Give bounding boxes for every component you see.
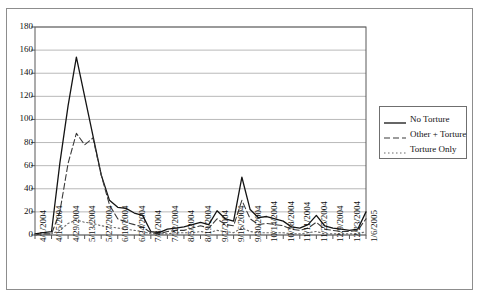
x-axis-tick-label: 9/2/2004 xyxy=(221,210,230,242)
y-axis-tick-label: 0 xyxy=(7,230,33,239)
x-axis-tick-label: 12/23/2004 xyxy=(353,201,362,242)
legend-item: No Torture xyxy=(384,111,449,126)
x-axis-tick-label: 7/22/2004 xyxy=(171,205,180,242)
y-axis-tick-label: 140 xyxy=(7,68,33,77)
legend-label: No Torture xyxy=(410,114,449,124)
y-axis-tick-label: 80 xyxy=(7,138,33,147)
series-line xyxy=(35,133,366,235)
y-axis-tick-label: 180 xyxy=(7,22,33,31)
y-axis-tick-label: 120 xyxy=(7,91,33,100)
y-axis-tick-label: 100 xyxy=(7,114,33,123)
series-line xyxy=(35,57,366,234)
x-axis-tick-label: 9/30/2004 xyxy=(254,205,263,242)
x-axis-tick-label: 8/5/2004 xyxy=(187,210,196,242)
x-axis-tick-label: 4/15/2004 xyxy=(55,205,64,242)
legend-item: Other + Torture xyxy=(384,126,466,141)
x-axis-tick-label: 4/29/2004 xyxy=(72,205,81,242)
legend-swatch-solid-icon xyxy=(384,114,406,124)
x-axis-tick-label: 5/27/2004 xyxy=(105,205,114,242)
plot-area-border xyxy=(35,27,366,235)
x-axis-tick-label: 7/8/2004 xyxy=(154,210,163,242)
x-axis-tick-label: 6/24/2004 xyxy=(138,205,147,242)
x-axis-tick-label: 11/25/2004 xyxy=(320,201,329,242)
gridlines xyxy=(35,27,366,235)
x-axis-tick-label: 8/19/2004 xyxy=(204,205,213,242)
x-axis-tick-label: 6/10/2004 xyxy=(121,205,130,242)
y-axis-tick-label: 60 xyxy=(7,161,33,170)
legend-swatch-dashed-icon xyxy=(384,129,406,139)
x-axis-tick-label: 10/28/2004 xyxy=(287,201,296,242)
x-axis-tick-label: 12/9/2004 xyxy=(336,205,345,242)
legend-swatch-dotted-icon xyxy=(384,144,406,154)
x-axis-tick-label: 11/11/2004 xyxy=(303,202,312,242)
legend-label: Other + Torture xyxy=(410,129,466,139)
x-axis-tick-label: 4/1/2004 xyxy=(39,210,48,242)
y-axis-tick-label: 20 xyxy=(7,207,33,216)
legend-label: Torture Only xyxy=(410,144,457,154)
series-paths xyxy=(35,57,366,235)
x-axis-tick-label: 1/6/2005 xyxy=(370,210,379,242)
x-axis-ticks xyxy=(35,235,366,239)
plot-border xyxy=(35,27,366,235)
x-axis-tick-label: 9/16/2004 xyxy=(237,205,246,242)
x-axis-tick-label: 5/13/2004 xyxy=(88,205,97,242)
y-axis-tick-label: 40 xyxy=(7,184,33,193)
chart-figure: 020406080100120140160180 4/1/20044/15/20… xyxy=(6,8,473,290)
y-axis-tick-label: 160 xyxy=(7,45,33,54)
legend-item: Torture Only xyxy=(384,141,457,156)
chart-legend: No TortureOther + TortureTorture Only xyxy=(379,106,467,159)
x-axis-tick-label: 10/14/2004 xyxy=(270,201,279,242)
y-axis-ticks xyxy=(31,27,35,235)
